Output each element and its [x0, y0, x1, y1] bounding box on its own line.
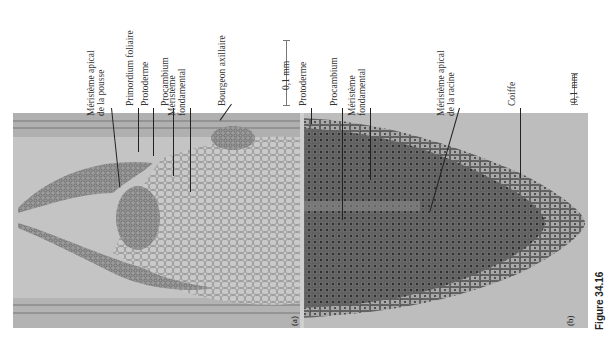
leader-line	[311, 108, 312, 124]
leader-line	[342, 108, 343, 220]
shoot-apex-image	[13, 113, 300, 328]
leader-line	[370, 108, 371, 180]
scale-label-b: 0,1 mm	[569, 74, 579, 103]
leader-line	[190, 108, 191, 192]
micrograph-shoot-apex: (a)	[13, 113, 300, 328]
figure-caption: Figure 34.16	[594, 272, 605, 330]
label-meristeme-apical-pousse: Méristème apical de la pousse	[86, 50, 106, 116]
label-primordium-foliaire: Primordium foliaire	[125, 30, 135, 106]
label-protoderme-b: Protoderme	[298, 62, 308, 106]
leader-line	[173, 108, 174, 176]
panel-label-a: (a)	[289, 316, 299, 326]
label-coiffe: Coiffe	[507, 82, 517, 106]
label-meristeme-fondamental-b: Méristème fondamental	[347, 69, 367, 116]
label-bourgeon-axillaire: Bourgeon axillaire	[217, 35, 227, 106]
root-tip-image	[300, 113, 588, 328]
leader-line	[138, 108, 139, 152]
leader-line	[520, 108, 521, 178]
label-meristeme-apical-racine: Méristème apical de la racine	[436, 50, 456, 116]
scale-label-a: 0,1 mm	[281, 61, 291, 90]
panel-label-b: (b)	[565, 316, 575, 327]
label-procambium-b: Procambium	[329, 57, 339, 106]
micrograph-root-tip: (b)	[300, 113, 588, 328]
label-protoderme-a: Protoderme	[140, 62, 150, 106]
label-meristeme-fondamental-a: Méristème fondamental	[167, 69, 187, 116]
leader-line	[153, 108, 154, 156]
